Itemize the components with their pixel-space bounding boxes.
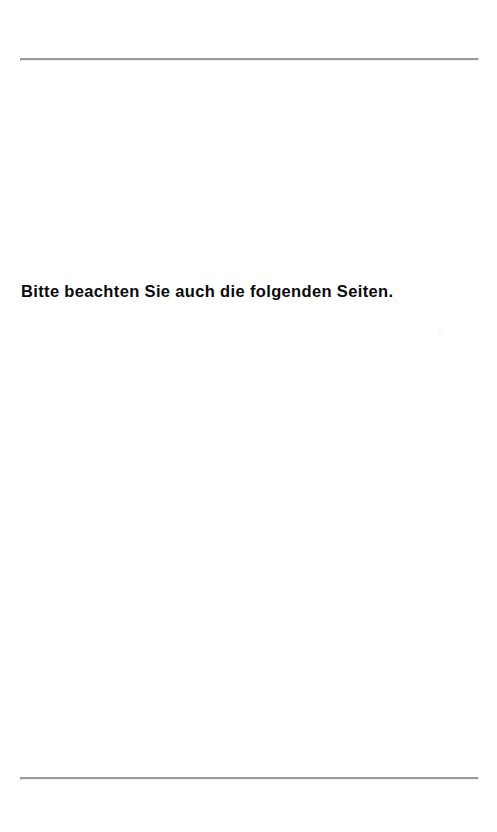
notice-text: Bitte beachten Sie auch die folgenden Se…	[21, 282, 393, 301]
document-page: Bitte beachten Sie auch die folgenden Se…	[0, 0, 497, 832]
footer-rule	[20, 777, 479, 780]
scan-artifact-speck	[438, 328, 444, 333]
page-body: Bitte beachten Sie auch die folgenden Se…	[0, 59, 497, 777]
